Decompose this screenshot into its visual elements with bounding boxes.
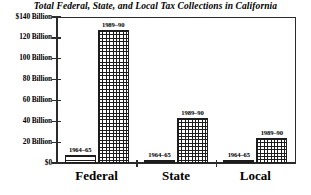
y-axis-tick-label: 20 Billion bbox=[0, 138, 52, 146]
bar-label-local-1989-90: 1989–90 bbox=[250, 129, 293, 136]
category-label-local: Local bbox=[216, 168, 295, 183]
y-axis-tick-label-wrap: 40 Billion bbox=[0, 117, 52, 125]
category-label-state: State bbox=[136, 168, 215, 183]
y-axis-tick-label-wrap: $140 Billion bbox=[0, 13, 52, 21]
bar-label-federal-1964-65: 1964–65 bbox=[59, 146, 102, 153]
bar-federal-1964-65 bbox=[65, 155, 96, 163]
bar-state-1989-90 bbox=[177, 118, 208, 163]
category-label-federal: Federal bbox=[57, 168, 136, 183]
y-axis-tick-label-wrap: 100 Billion bbox=[0, 54, 52, 62]
y-axis-tick-label: 120 Billion bbox=[0, 33, 52, 41]
bars-layer bbox=[57, 17, 295, 163]
y-axis-tick-label: $0 bbox=[0, 159, 52, 167]
bar-local-1989-90 bbox=[256, 138, 287, 163]
bar-federal-1989-90 bbox=[98, 30, 129, 163]
y-axis-tick-label-wrap: 120 Billion bbox=[0, 33, 52, 41]
bar-label-local-1964-65: 1964–65 bbox=[217, 151, 260, 158]
bar-state-1964-65 bbox=[144, 160, 175, 163]
y-axis-tick-label: 40 Billion bbox=[0, 117, 52, 125]
bar-label-state-1989-90: 1989–90 bbox=[171, 109, 214, 116]
y-axis-tick-label-wrap: $0 bbox=[0, 159, 52, 167]
y-axis-tick-label: 60 Billion bbox=[0, 96, 52, 104]
y-axis-tick-label: 80 Billion bbox=[0, 75, 52, 83]
chart-title: Total Federal, State, and Local Tax Coll… bbox=[0, 0, 311, 12]
bar-label-state-1964-65: 1964–65 bbox=[138, 151, 181, 158]
y-axis-tick-label: 100 Billion bbox=[0, 54, 52, 62]
y-axis-tick-label: $140 Billion bbox=[0, 13, 52, 21]
y-axis-tick-label-wrap: 80 Billion bbox=[0, 75, 52, 83]
bar-label-federal-1989-90: 1989–90 bbox=[92, 21, 135, 28]
chart-figure: Total Federal, State, and Local Tax Coll… bbox=[0, 0, 311, 195]
bar-local-1964-65 bbox=[223, 160, 254, 163]
y-axis-tick-label-wrap: 20 Billion bbox=[0, 138, 52, 146]
y-axis-tick-label-wrap: 60 Billion bbox=[0, 96, 52, 104]
